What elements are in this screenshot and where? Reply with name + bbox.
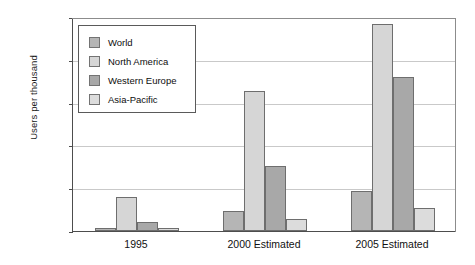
bar	[116, 197, 137, 231]
bar	[286, 219, 307, 231]
legend-label: Western Europe	[108, 76, 176, 86]
legend-item: Asia-Pacific	[89, 90, 195, 109]
chart-legend: WorldNorth AmericaWestern EuropeAsia-Pac…	[78, 25, 196, 113]
legend-swatch-icon	[89, 75, 100, 86]
legend-label: World	[108, 38, 133, 48]
bar	[244, 91, 265, 231]
bar	[351, 191, 372, 231]
x-axis-group-label: 2000 Estimated	[194, 238, 334, 250]
legend-swatch-icon	[89, 56, 100, 67]
bar	[223, 211, 244, 231]
bar	[137, 222, 158, 231]
legend-swatch-icon	[89, 37, 100, 48]
y-axis-tick-mark	[69, 189, 73, 190]
legend-item: World	[89, 33, 195, 52]
y-axis-tick-mark	[69, 232, 73, 233]
bar	[372, 24, 393, 231]
x-axis-group-label: 2005 Estimated	[322, 238, 462, 250]
y-axis-tick-mark	[69, 104, 73, 105]
bar	[158, 228, 179, 231]
legend-label: North America	[108, 57, 168, 67]
bar	[265, 166, 286, 231]
y-axis-title: Users per thousand	[28, 18, 39, 178]
x-axis-group-label: 1995	[66, 238, 206, 250]
legend-item: North America	[89, 52, 195, 71]
legend-item: Western Europe	[89, 71, 195, 90]
y-axis-tick-mark	[69, 146, 73, 147]
legend-swatch-icon	[89, 94, 100, 105]
bar	[95, 228, 116, 231]
plot-frame-top-border	[72, 18, 456, 19]
bar	[393, 77, 414, 231]
bar	[414, 208, 435, 231]
y-axis-tick-mark	[69, 61, 73, 62]
plot-frame-right-border	[455, 18, 456, 232]
bar-chart: Users per thousand 0150300450600750 1995…	[0, 0, 475, 265]
legend-label: Asia-Pacific	[108, 95, 158, 105]
